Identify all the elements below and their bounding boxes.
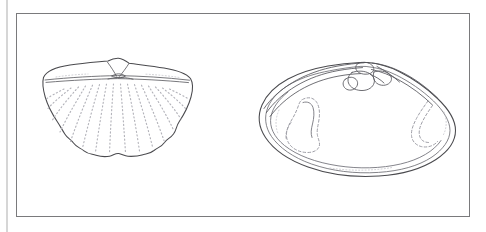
illustration-plate xyxy=(0,0,486,232)
plate-frame-border xyxy=(16,13,470,217)
page-edge-line xyxy=(6,0,8,232)
plate-caption xyxy=(16,220,470,230)
